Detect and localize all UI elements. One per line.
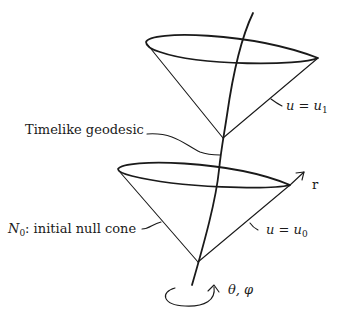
initial-null-cone-leader xyxy=(142,222,161,229)
lower-cone-label: u = u0 xyxy=(266,222,308,239)
lower-cone-rim xyxy=(118,163,290,188)
timelike-geodesic-leader xyxy=(147,134,220,155)
lower-null-cone xyxy=(118,163,290,262)
upper-cone-rim xyxy=(146,35,318,63)
lower-cone-leader xyxy=(250,223,258,230)
timelike-geodesic-label: Timelike geodesic xyxy=(25,122,144,137)
timelike-geodesic-line xyxy=(192,13,253,285)
null-cone-diagram: Timelike geodesic u = u1 N0: initial nul… xyxy=(0,0,339,314)
radial-arrow xyxy=(289,172,304,186)
upper-cone-label: u = u1 xyxy=(286,98,328,115)
radial-axis-label: r xyxy=(312,177,319,192)
rotation-arrow xyxy=(165,285,219,306)
rotation-arrowhead-icon xyxy=(208,285,219,292)
upper-cone-leader xyxy=(271,99,282,106)
initial-null-cone-label: N0: initial null cone xyxy=(7,221,136,238)
angular-coords-label: θ, φ xyxy=(228,282,254,297)
